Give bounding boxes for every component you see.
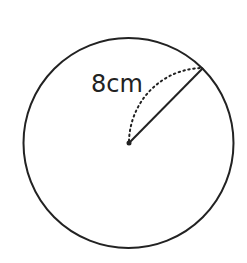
circle-diagram: 8cm	[0, 0, 247, 263]
radius-label: 8cm	[91, 70, 143, 98]
center-point	[127, 141, 132, 146]
